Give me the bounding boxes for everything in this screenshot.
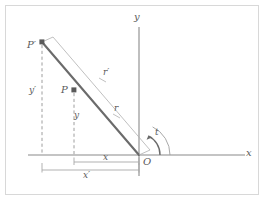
x-axis-label: x (246, 148, 252, 158)
y-length-label: y (74, 111, 79, 120)
origin-label: O (143, 157, 151, 167)
radial-ray-line (42, 42, 139, 155)
angle-t-label: t (155, 128, 159, 137)
y-prime-length-label: y′ (29, 86, 36, 95)
r-prime-tick (99, 78, 106, 82)
angle-t-inner-arc (148, 136, 160, 155)
r-prime-measure-hook-bottom (139, 150, 150, 155)
r-tick (113, 114, 120, 118)
point-p-prime-label: P′ (27, 40, 36, 50)
point-p-prime-marker (39, 39, 44, 44)
point-p-label: P (61, 85, 68, 95)
point-p-marker (71, 87, 76, 92)
x-prime-length-label: x′ (83, 171, 90, 180)
x-length-label: x (103, 153, 108, 162)
diagram-graphics (0, 0, 268, 208)
y-axis-label: y (134, 12, 140, 22)
r-length-label: r (114, 104, 118, 113)
figure-canvas: y x O P′ P r′ r y′ y x x′ t (0, 0, 268, 208)
r-prime-length-label: r′ (103, 68, 109, 77)
